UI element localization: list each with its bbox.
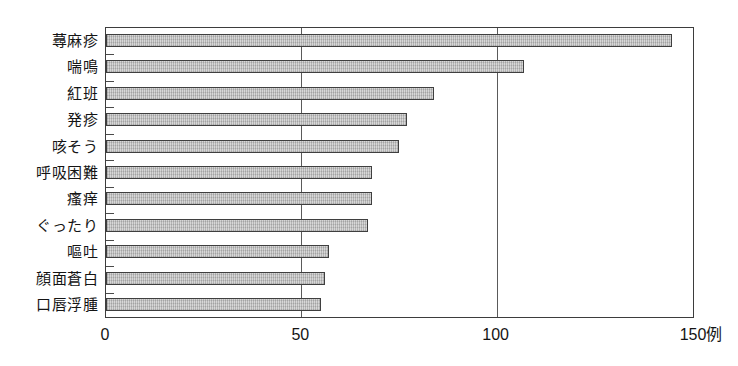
category-label: 口唇浮腫	[0, 297, 98, 312]
category-label: 発疹	[0, 112, 98, 127]
category-boundary-tick	[106, 213, 114, 214]
category-label: ぐったり	[0, 218, 98, 233]
bar-嘔吐	[106, 245, 329, 258]
category-label: 咳そう	[0, 139, 98, 154]
category-boundary-tick	[106, 160, 114, 161]
category-boundary-tick	[106, 81, 114, 82]
plot-area	[105, 27, 694, 318]
bar-蕁麻疹	[106, 34, 672, 47]
bar-chart-figure: 蕁麻疹喘鳴紅班発疹咳そう呼吸困難瘙痒ぐったり嘔吐顔面蒼白口唇浮腫 0501001…	[0, 0, 738, 366]
category-label: 呼吸困難	[0, 165, 98, 180]
category-label: 喘鳴	[0, 59, 98, 74]
bar-顔面蒼白	[106, 272, 325, 285]
x-tick-label-0: 0	[101, 327, 110, 343]
bar-咳そう	[106, 140, 399, 153]
category-boundary-tick	[106, 240, 114, 241]
x-tick-label-100: 100	[482, 327, 509, 343]
category-boundary-tick	[106, 134, 114, 135]
category-boundary-tick	[106, 266, 114, 267]
category-boundary-tick	[106, 293, 114, 294]
bar-発疹	[106, 113, 407, 126]
category-label: 顔面蒼白	[0, 271, 98, 286]
x-tick-label-50: 50	[291, 327, 309, 343]
bar-呼吸困難	[106, 166, 372, 179]
category-boundary-tick	[106, 107, 114, 108]
bar-瘙痒	[106, 192, 372, 205]
category-boundary-tick	[106, 187, 114, 188]
category-label: 蕁麻疹	[0, 33, 98, 48]
x-tick-label-150: 150例	[680, 327, 723, 343]
category-label: 紅班	[0, 86, 98, 101]
bar-口唇浮腫	[106, 298, 321, 311]
bar-紅班	[106, 87, 434, 100]
bar-喘鳴	[106, 60, 524, 73]
bar-ぐったり	[106, 219, 368, 232]
category-label: 瘙痒	[0, 191, 98, 206]
category-boundary-tick	[106, 54, 114, 55]
category-label: 嘔吐	[0, 244, 98, 259]
